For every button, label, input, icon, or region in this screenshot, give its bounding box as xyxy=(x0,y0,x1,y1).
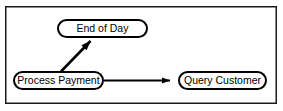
node-end-of-day[interactable]: End of Day xyxy=(58,20,147,37)
node-query-customer[interactable]: Query Customer xyxy=(179,72,266,89)
node-end-of-day-label: End of Day xyxy=(77,22,130,34)
diagram-canvas: End of Day Process Payment Query Custome… xyxy=(0,0,283,111)
node-query-customer-label: Query Customer xyxy=(184,74,262,86)
node-process-payment[interactable]: Process Payment xyxy=(14,72,103,89)
node-process-payment-label: Process Payment xyxy=(17,74,99,86)
